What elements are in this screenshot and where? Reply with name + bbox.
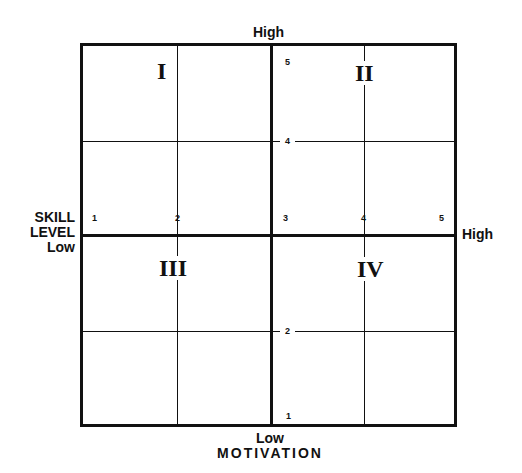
motivation-tick-1: 1 <box>286 412 291 421</box>
skill-high-label: High <box>462 227 493 242</box>
skill-tick-1: 1 <box>92 214 97 223</box>
gridline-motivation-4 <box>80 141 457 142</box>
quadrant-label-iv: IV <box>356 257 385 281</box>
skill-axis-name-line-1: SKILL <box>30 210 75 225</box>
gridline-motivation-2 <box>80 331 457 332</box>
motivation-axis-name: MOTIVATION <box>80 446 460 461</box>
skill-tick-4: 4 <box>361 214 366 223</box>
motivation-low-label: Low <box>80 431 460 446</box>
axis-skill-center <box>80 234 457 237</box>
quadrant-label-iii: III <box>158 256 188 280</box>
motivation-high-label: High <box>253 25 284 40</box>
quadrant-label-ii: II <box>354 61 375 85</box>
motivation-tick-4: 4 <box>280 137 295 146</box>
motivation-tick-5: 5 <box>285 58 290 67</box>
quadrant-label-i: I <box>156 59 167 83</box>
skill-tick-2: 2 <box>175 214 180 223</box>
motivation-tick-2: 2 <box>280 327 295 336</box>
motivation-axis-label: Low MOTIVATION <box>80 431 460 461</box>
skill-tick-3: 3 <box>283 214 288 223</box>
skill-low-label: Low <box>30 240 75 255</box>
skill-axis-name-line-2: LEVEL <box>30 225 75 240</box>
skill-tick-5: 5 <box>439 214 444 223</box>
skill-level-axis-label: SKILL LEVEL Low <box>30 210 75 255</box>
